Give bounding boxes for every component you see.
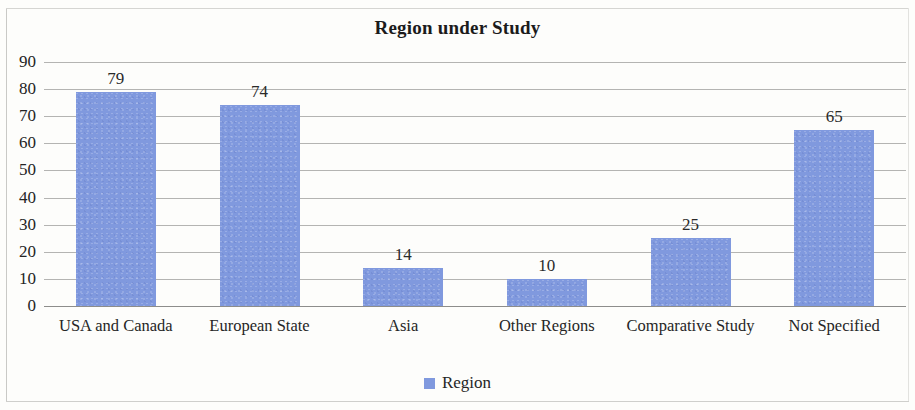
bar[interactable] bbox=[363, 268, 443, 306]
x-axis-category-label: Comparative Study bbox=[619, 316, 763, 335]
bar-value-label: 25 bbox=[651, 216, 731, 233]
bar[interactable] bbox=[507, 279, 587, 306]
figure-border-right bbox=[908, 8, 909, 402]
chart-title: Region under Study bbox=[0, 17, 915, 39]
gridline-0 bbox=[44, 306, 906, 307]
y-axis-tick-label-30: 30 bbox=[0, 216, 36, 233]
bar[interactable] bbox=[76, 92, 156, 306]
x-axis-category-label: Not Specified bbox=[762, 316, 906, 335]
legend-label-region: Region bbox=[442, 373, 491, 393]
x-axis-category-label: USA and Canada bbox=[44, 316, 188, 335]
bar[interactable] bbox=[220, 105, 300, 306]
y-axis-tick-label-20: 20 bbox=[0, 243, 36, 260]
bar-chart-figure: Region under Study Region 90807060504030… bbox=[0, 0, 915, 410]
bar-value-label: 74 bbox=[220, 83, 300, 100]
gridline-20 bbox=[44, 252, 906, 253]
gridline-80 bbox=[44, 89, 906, 90]
x-axis-category-label: Asia bbox=[331, 316, 475, 335]
y-axis-tick-label-60: 60 bbox=[0, 134, 36, 151]
y-axis-tick-label-0: 0 bbox=[0, 297, 36, 314]
y-axis-tick-label-50: 50 bbox=[0, 161, 36, 178]
bar-value-label: 79 bbox=[76, 70, 156, 87]
gridline-90 bbox=[44, 62, 906, 63]
y-axis-tick-label-80: 80 bbox=[0, 80, 36, 97]
gridline-60 bbox=[44, 143, 906, 144]
y-axis-tick-label-10: 10 bbox=[0, 270, 36, 287]
bar[interactable] bbox=[794, 130, 874, 306]
gridline-10 bbox=[44, 279, 906, 280]
x-axis-category-label: Other Regions bbox=[475, 316, 619, 335]
bar[interactable] bbox=[651, 238, 731, 306]
gridline-50 bbox=[44, 170, 906, 171]
bar-value-label: 10 bbox=[507, 257, 587, 274]
bar-value-label: 65 bbox=[794, 108, 874, 125]
gridline-30 bbox=[44, 225, 906, 226]
bar-value-label: 14 bbox=[363, 246, 443, 263]
gridline-40 bbox=[44, 198, 906, 199]
figure-border-top bbox=[6, 8, 909, 9]
legend-swatch-region-icon bbox=[424, 378, 435, 389]
x-axis-category-label: European State bbox=[188, 316, 332, 335]
y-axis-tick-label-40: 40 bbox=[0, 189, 36, 206]
plot-area bbox=[44, 62, 906, 306]
chart-legend: Region bbox=[0, 373, 915, 393]
y-axis-tick-label-90: 90 bbox=[0, 53, 36, 70]
figure-border-bottom bbox=[6, 401, 909, 402]
y-axis-tick-label-70: 70 bbox=[0, 107, 36, 124]
gridline-70 bbox=[44, 116, 906, 117]
